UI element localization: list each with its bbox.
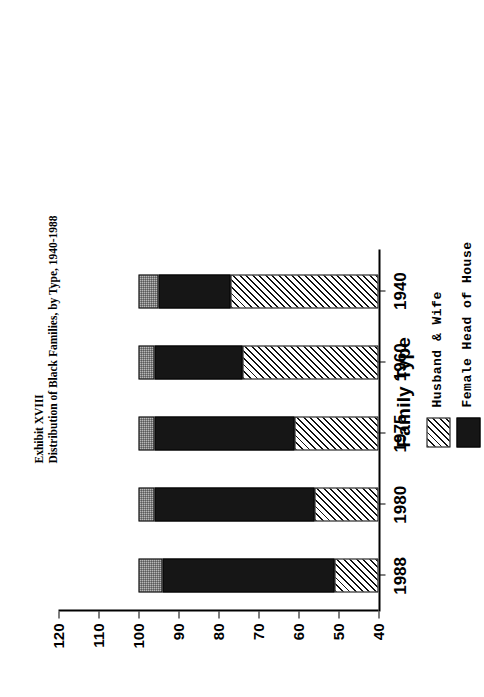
bar-segment-husband-wife[interactable] — [334, 558, 378, 592]
value-tick-label: 80 — [213, 623, 223, 657]
value-tick — [58, 611, 59, 618]
bar-segment-husband-wife[interactable] — [294, 416, 378, 450]
category-tick — [378, 361, 385, 362]
bar-segment-female-head-of-house[interactable] — [158, 274, 230, 308]
bar-1975[interactable] — [138, 416, 378, 450]
value-tick-label: 50 — [333, 623, 343, 657]
category-tick — [378, 574, 385, 575]
bar-segment-male-head-of-house[interactable] — [138, 345, 154, 379]
legend-heading: Family Type — [392, 336, 414, 447]
legend-label-female-head: Female Head of House — [459, 241, 474, 407]
bar-segment-male-head-of-house[interactable] — [138, 274, 158, 308]
bar-segment-female-head-of-house[interactable] — [154, 345, 242, 379]
value-tick — [178, 611, 179, 618]
bar-segment-husband-wife[interactable] — [242, 345, 378, 379]
bar-1988[interactable] — [138, 558, 378, 592]
bar-segment-female-head-of-house[interactable] — [162, 558, 334, 592]
value-tick-label: 40 — [373, 623, 383, 657]
bar-segment-husband-wife[interactable] — [314, 487, 378, 521]
bar-1980[interactable] — [138, 487, 378, 521]
category-tick — [378, 503, 385, 504]
value-tick — [378, 611, 379, 618]
value-tick-label: 70 — [253, 623, 263, 657]
bar-segment-male-head-of-house[interactable] — [138, 416, 154, 450]
value-tick-label: 100 — [133, 623, 143, 657]
category-label-1988: 1988 — [390, 540, 410, 610]
bar-1960[interactable] — [138, 345, 378, 379]
value-tick — [98, 611, 99, 618]
value-tick — [258, 611, 259, 618]
value-tick — [218, 611, 219, 618]
value-tick-label: 90 — [173, 623, 183, 657]
value-tick — [298, 611, 299, 618]
category-label-1980: 1980 — [390, 469, 410, 539]
bar-segment-female-head-of-house[interactable] — [154, 487, 314, 521]
chart-legend: Family Type Husband & Wife Female Head o… — [392, 117, 478, 447]
value-tick-label: 110 — [93, 623, 103, 657]
bar-segment-female-head-of-house[interactable] — [154, 416, 294, 450]
chart-canvas: 4050607080901001101201988198019751960194… — [0, 0, 484, 697]
category-tick — [378, 432, 385, 433]
bar-1940[interactable] — [138, 274, 378, 308]
value-tick — [138, 611, 139, 618]
legend-swatch-female-head-icon — [456, 417, 480, 447]
value-tick-label: 60 — [293, 623, 303, 657]
bar-segment-male-head-of-house[interactable] — [138, 487, 154, 521]
bar-segment-male-head-of-house[interactable] — [138, 558, 162, 592]
value-tick-label: 120 — [53, 623, 63, 657]
value-tick — [338, 611, 339, 618]
legend-label-husband-wife: Husband & Wife — [429, 291, 444, 407]
plot-area: 4050607080901001101201988198019751960194… — [58, 255, 378, 611]
bar-segment-husband-wife[interactable] — [230, 274, 378, 308]
legend-swatch-husband-wife-icon — [426, 417, 450, 447]
category-tick — [378, 290, 385, 291]
